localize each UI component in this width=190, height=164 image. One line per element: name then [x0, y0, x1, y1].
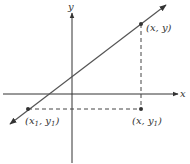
- label-x-y1-base: (x, y: [132, 115, 154, 126]
- label-x-y: (x, y): [146, 22, 172, 33]
- coordinate-diagram: x y (x, y) (x1, y1) (x, y1): [0, 0, 190, 164]
- point-x-y1: [139, 107, 143, 111]
- label-x1-y1-end: ): [55, 115, 60, 126]
- label-x1-y1-mid: , y: [39, 115, 51, 126]
- y-axis-label: y: [67, 1, 74, 12]
- label-x1-y1-base: (x: [25, 115, 35, 126]
- x-axis-label: x: [180, 88, 186, 99]
- point-x1-y1: [26, 107, 30, 111]
- label-x-y1-end: ): [157, 115, 162, 126]
- point-x-y: [139, 22, 143, 26]
- label-x-y1: (x, y1): [132, 115, 162, 128]
- label-x1-y1: (x1, y1): [25, 115, 60, 128]
